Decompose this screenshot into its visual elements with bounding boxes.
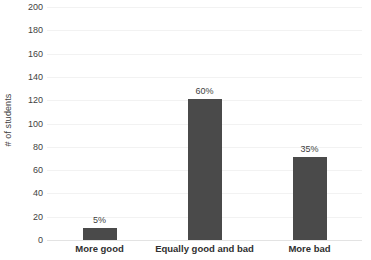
y-tick-label: 180 — [3, 26, 43, 35]
bar-value-label: 60% — [195, 87, 213, 96]
category-label: More good — [75, 243, 124, 254]
y-tick-label: 20 — [3, 212, 43, 221]
bar-value-label: 35% — [300, 145, 318, 154]
bar-slot: 5% — [47, 7, 152, 240]
y-tick-label: 80 — [3, 142, 43, 151]
y-tick-label: 100 — [3, 119, 43, 128]
axis-baseline — [47, 240, 362, 241]
y-tick-label: 60 — [3, 166, 43, 175]
plot-area: 5%60%35% — [47, 7, 362, 240]
bar[interactable] — [188, 99, 222, 240]
y-tick-label: 140 — [3, 72, 43, 81]
category-label: More bad — [288, 243, 330, 254]
bar-chart: # of students 20018016014012010080604020… — [0, 0, 371, 260]
category-label: Equally good and bad — [155, 243, 254, 254]
bar[interactable] — [83, 228, 117, 240]
bar-slot: 60% — [152, 7, 257, 240]
bar-value-label: 5% — [93, 216, 106, 225]
bar[interactable] — [293, 157, 327, 240]
y-tick-label: 40 — [3, 189, 43, 198]
x-axis-category-labels: More goodEqually good and badMore bad — [47, 243, 362, 260]
y-tick-label: 200 — [3, 3, 43, 12]
y-tick-label: 120 — [3, 96, 43, 105]
y-tick-label: 160 — [3, 49, 43, 58]
bar-slot: 35% — [257, 7, 362, 240]
y-tick-label: 0 — [3, 236, 43, 245]
y-axis-tick-labels: 200180160140120100806040200 — [0, 7, 43, 240]
